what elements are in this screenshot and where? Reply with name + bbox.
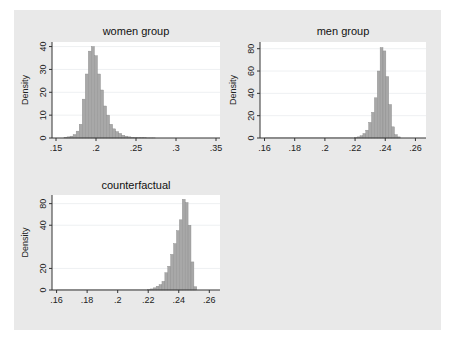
y-axis-label: Density bbox=[228, 74, 238, 105]
x-tick-label: .26 bbox=[203, 295, 216, 305]
histogram-bar bbox=[73, 135, 76, 138]
histogram-bar bbox=[94, 56, 97, 138]
histogram-bar bbox=[156, 286, 159, 290]
y-tick-label: 0 bbox=[38, 135, 48, 140]
y-tick-label: 80 bbox=[246, 44, 256, 54]
histogram-bar bbox=[104, 106, 107, 138]
x-tick-label: .22 bbox=[142, 295, 155, 305]
x-tick-label: .24 bbox=[379, 143, 392, 153]
histogram-bar bbox=[179, 220, 182, 290]
x-tick-label: .2 bbox=[114, 295, 122, 305]
y-tick-label: 0 bbox=[38, 287, 48, 292]
x-tick-label: .2 bbox=[92, 143, 100, 153]
x-tick-label: .3 bbox=[172, 143, 180, 153]
x-tick-label: .24 bbox=[173, 295, 186, 305]
y-tick-label: 10 bbox=[38, 110, 48, 120]
x-tick-label: .16 bbox=[50, 295, 63, 305]
y-tick-label: 80 bbox=[38, 199, 48, 209]
histogram-bar bbox=[386, 77, 389, 138]
histogram-bar bbox=[88, 51, 91, 138]
y-tick-label: 20 bbox=[246, 111, 256, 121]
histogram-bar bbox=[116, 132, 119, 138]
plot-area bbox=[52, 42, 220, 138]
y-axis-label: Density bbox=[20, 74, 30, 105]
histogram-bar bbox=[174, 244, 177, 290]
y-tick-label: 30 bbox=[38, 64, 48, 74]
x-tick-label: .15 bbox=[50, 143, 63, 153]
y-axis-label: Density bbox=[20, 227, 30, 258]
x-tick-label: .18 bbox=[81, 295, 94, 305]
y-tick-label: 40 bbox=[38, 42, 48, 52]
y-tick-label: 40 bbox=[246, 88, 256, 98]
histogram-bar bbox=[159, 285, 162, 290]
histogram-bar bbox=[185, 203, 188, 290]
histogram-bar bbox=[162, 281, 165, 290]
histogram-bar bbox=[389, 105, 392, 138]
histogram-bar bbox=[374, 98, 377, 138]
x-tick-label: .26 bbox=[409, 143, 422, 153]
panel-men-group: 020406080.16.18.2.22.24.26men groupDensi… bbox=[228, 25, 426, 153]
histogram-bar bbox=[383, 51, 386, 138]
histogram-bar bbox=[392, 127, 395, 138]
plot-area bbox=[260, 42, 426, 138]
histogram-bar bbox=[366, 130, 369, 138]
histogram-bar bbox=[394, 135, 397, 138]
y-tick-label: 40 bbox=[38, 220, 48, 230]
histogram-bar bbox=[168, 266, 171, 290]
x-tick-label: .2 bbox=[321, 143, 329, 153]
x-tick-label: .18 bbox=[288, 143, 301, 153]
histogram-bar bbox=[182, 199, 185, 290]
histogram-bar bbox=[119, 133, 122, 138]
y-tick-label: 20 bbox=[38, 263, 48, 273]
histogram-grid: 010203040.15.2.25.3.35women groupDensity… bbox=[14, 10, 441, 330]
panel-title: counterfactual bbox=[101, 179, 170, 191]
histogram-bar bbox=[165, 273, 168, 290]
figure-background: 010203040.15.2.25.3.35women groupDensity… bbox=[14, 10, 441, 330]
histogram-bar bbox=[191, 262, 194, 290]
y-tick-label: 20 bbox=[38, 87, 48, 97]
histogram-bar bbox=[171, 254, 174, 290]
panel-women-group: 010203040.15.2.25.3.35women groupDensity bbox=[20, 25, 222, 153]
histogram-bar bbox=[82, 99, 85, 138]
histogram-bar bbox=[372, 112, 375, 138]
histogram-bar bbox=[380, 48, 383, 138]
x-tick-label: .35 bbox=[210, 143, 223, 153]
x-tick-label: .22 bbox=[349, 143, 362, 153]
plot-area bbox=[52, 195, 220, 290]
x-tick-label: .16 bbox=[258, 143, 271, 153]
panel-title: men group bbox=[317, 25, 370, 37]
histogram-bar bbox=[369, 122, 372, 138]
histogram-bar bbox=[76, 131, 79, 138]
histogram-bar bbox=[113, 129, 116, 138]
panel-title: women group bbox=[102, 25, 170, 37]
y-tick-label: 0 bbox=[246, 135, 256, 140]
histogram-bar bbox=[85, 74, 88, 138]
histogram-bar bbox=[188, 225, 191, 290]
panel-counterfactual: 0204080.16.18.2.22.24.26counterfactualDe… bbox=[20, 179, 220, 305]
histogram-bar bbox=[176, 231, 179, 290]
y-tick-label: 60 bbox=[246, 66, 256, 76]
histogram-bar bbox=[107, 115, 110, 138]
histogram-bar bbox=[377, 71, 380, 138]
x-tick-label: .25 bbox=[130, 143, 143, 153]
histogram-bar bbox=[97, 74, 100, 138]
histogram-bar bbox=[363, 134, 366, 138]
histogram-bar bbox=[100, 90, 103, 138]
histogram-bar bbox=[79, 124, 82, 138]
histogram-bar bbox=[110, 124, 113, 138]
histogram-bar bbox=[91, 47, 94, 138]
